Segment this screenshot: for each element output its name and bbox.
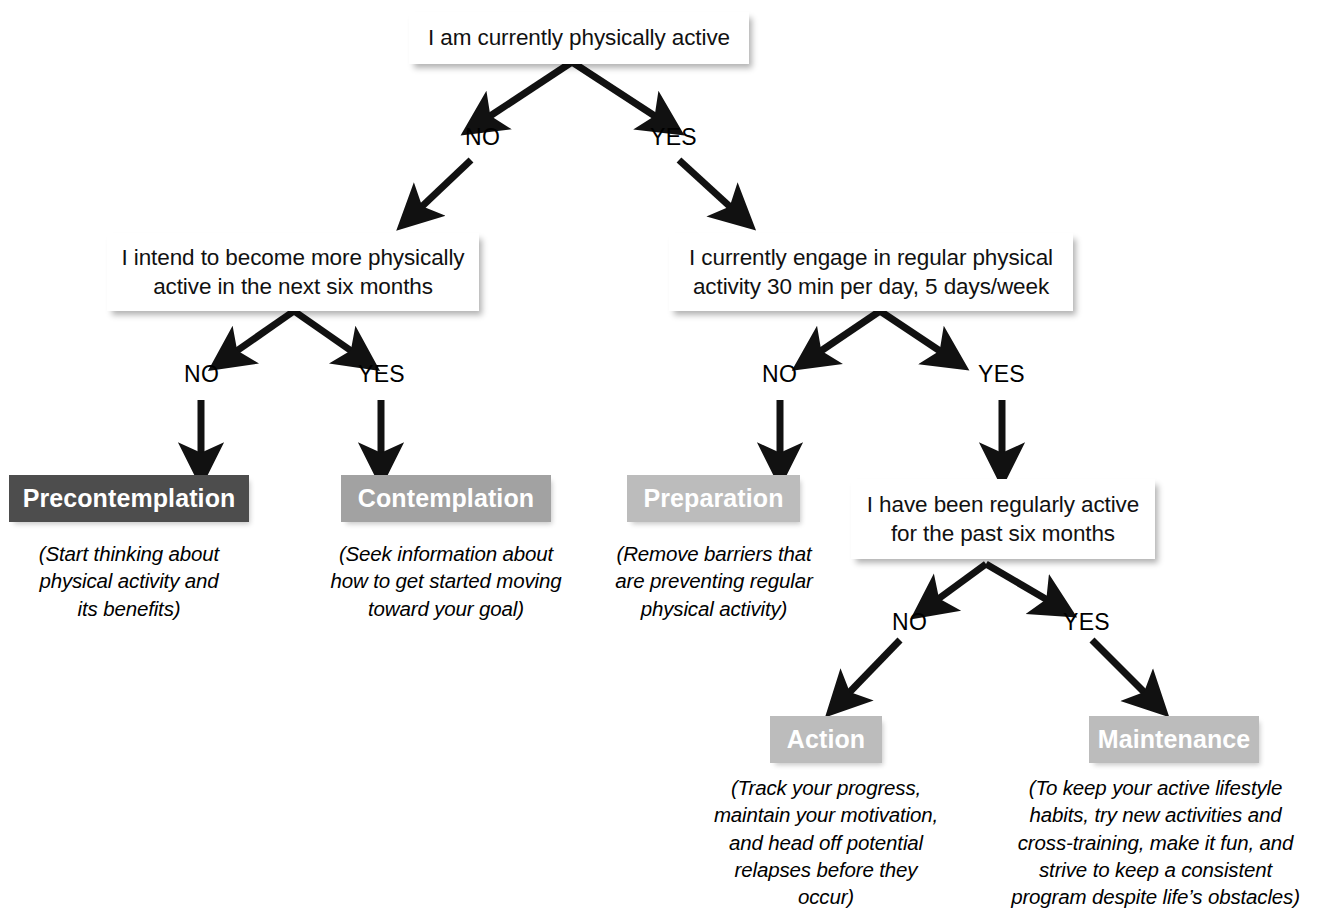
edge-label-root-yes: YES	[650, 124, 697, 151]
edge-label-root-no: NO	[465, 124, 500, 151]
stage-label-preparation: Preparation	[643, 484, 783, 513]
question-regular-line2: activity 30 min per day, 5 days/week	[693, 272, 1049, 301]
edge-label-sixmonths-yes: YES	[1063, 609, 1110, 636]
arrow-no-to-action	[842, 640, 900, 700]
question-sixmonths-line2: for the past six months	[891, 519, 1115, 548]
caption-action: (Track your progress, maintain your moti…	[704, 774, 948, 910]
edge-label-intend-no: NO	[184, 361, 219, 388]
arrow-intend-to-no	[228, 311, 294, 357]
arrow-sixmonths-to-no	[930, 564, 986, 605]
arrow-sixmonths-to-yes	[986, 564, 1056, 605]
stage-box-action: Action	[770, 716, 882, 763]
arrow-regular-to-no	[812, 311, 880, 357]
question-regular-line1: I currently engage in regular physical	[689, 243, 1053, 272]
stage-label-action: Action	[787, 725, 865, 754]
edge-label-regular-no: NO	[762, 361, 797, 388]
flowchart-canvas: I am currently physically active I inten…	[0, 0, 1332, 921]
stage-box-precontemplation: Precontemplation	[9, 475, 249, 522]
caption-preparation: (Remove barriers that are preventing reg…	[601, 540, 827, 622]
edge-label-intend-yes: YES	[358, 361, 405, 388]
arrow-no-to-intend	[414, 160, 471, 214]
arrow-root-to-no	[481, 62, 572, 122]
caption-precontemplation: (Start thinking about physical activity …	[9, 540, 249, 622]
stage-box-maintenance: Maintenance	[1089, 716, 1259, 763]
question-box-intend: I intend to become more physically activ…	[107, 233, 479, 311]
arrow-yes-to-regular	[679, 160, 738, 214]
arrow-root-to-yes	[572, 62, 664, 122]
edge-label-regular-yes: YES	[978, 361, 1025, 388]
stage-label-maintenance: Maintenance	[1098, 725, 1251, 754]
question-root-text: I am currently physically active	[428, 23, 730, 52]
arrow-intend-to-yes	[294, 311, 360, 357]
arrow-regular-to-yes	[880, 311, 949, 357]
stage-label-contemplation: Contemplation	[358, 484, 534, 513]
edge-label-sixmonths-no: NO	[892, 609, 927, 636]
stage-box-preparation: Preparation	[627, 475, 800, 522]
caption-contemplation: (Seek information about how to get start…	[312, 540, 580, 622]
question-sixmonths-line1: I have been regularly active	[867, 490, 1139, 519]
stage-box-contemplation: Contemplation	[341, 475, 551, 522]
question-box-six-months: I have been regularly active for the pas…	[851, 479, 1155, 559]
question-intend-line2: active in the next six months	[153, 272, 433, 301]
arrow-yes-to-maintenance	[1092, 640, 1152, 700]
question-box-regular: I currently engage in regular physical a…	[669, 233, 1073, 311]
stage-label-precontemplation: Precontemplation	[23, 484, 236, 513]
question-intend-line1: I intend to become more physically	[121, 243, 464, 272]
caption-maintenance: (To keep your active lifestyle habits, t…	[983, 774, 1328, 910]
question-box-root: I am currently physically active	[409, 12, 749, 64]
